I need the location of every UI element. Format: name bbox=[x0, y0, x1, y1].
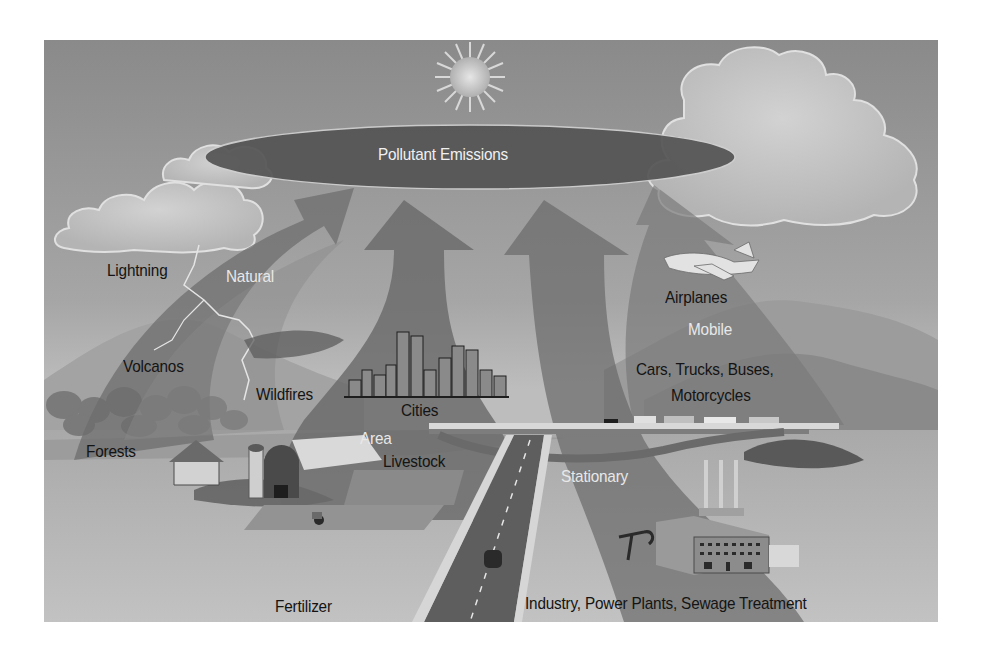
label-fertilizer: Fertilizer bbox=[275, 598, 332, 615]
car-icon bbox=[484, 550, 502, 568]
label-area: Area bbox=[360, 430, 392, 447]
label-cars-trucks-buses: Cars, Trucks, Buses, bbox=[636, 361, 774, 378]
label-natural: Natural bbox=[226, 268, 274, 285]
label-volcanos: Volcanos bbox=[123, 358, 184, 375]
label-stationary: Stationary bbox=[561, 468, 628, 485]
diagram-illustration bbox=[44, 40, 938, 622]
label-lightning: Lightning bbox=[107, 262, 167, 279]
label-livestock: Livestock bbox=[383, 453, 445, 470]
label-wildfires: Wildfires bbox=[256, 386, 313, 403]
label-motorcycles: Motorcycles bbox=[671, 387, 751, 404]
pollutant-emissions-diagram: Pollutant Emissions Lightning Natural Vo… bbox=[44, 40, 938, 622]
sun-icon bbox=[435, 42, 505, 112]
label-forests: Forests bbox=[86, 443, 136, 460]
label-airplanes: Airplanes bbox=[665, 289, 727, 306]
diagram-title: Pollutant Emissions bbox=[378, 146, 508, 163]
label-industry-power-sewage: Industry, Power Plants, Sewage Treatment bbox=[525, 595, 807, 612]
label-mobile: Mobile bbox=[688, 321, 732, 338]
label-cities: Cities bbox=[401, 402, 438, 419]
